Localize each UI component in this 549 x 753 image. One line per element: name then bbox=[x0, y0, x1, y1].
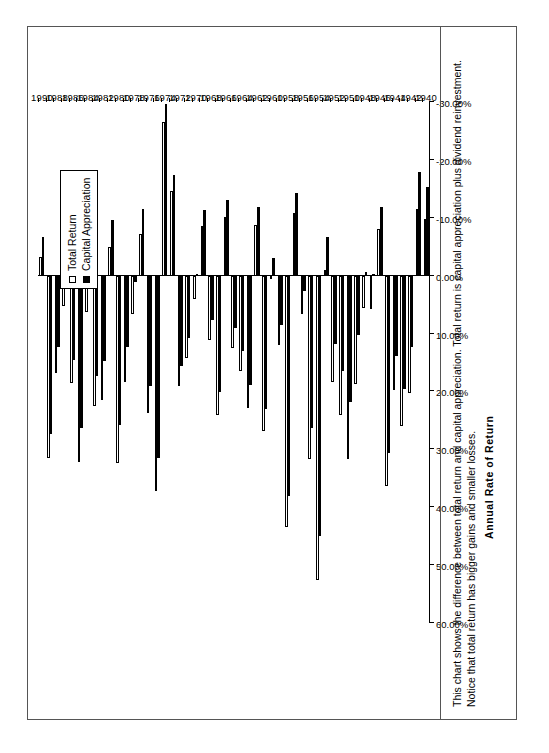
bar-capital-appreciation bbox=[319, 276, 322, 537]
bar-capital-appreciation bbox=[342, 276, 345, 372]
legend-item-capital-appreciation: Capital Appreciation bbox=[79, 178, 93, 283]
bar-capital-appreciation bbox=[403, 276, 406, 389]
figure-page: Figure 5.1 Difference Between Total Retu… bbox=[0, 0, 549, 753]
category-axis-tick bbox=[99, 98, 100, 102]
value-axis-tick bbox=[429, 390, 434, 391]
category-axis-tick bbox=[207, 98, 208, 102]
bar-capital-appreciation bbox=[272, 258, 275, 275]
category-axis-tick bbox=[284, 98, 285, 102]
bar-capital-appreciation bbox=[411, 276, 414, 348]
category-axis-tick bbox=[38, 98, 39, 102]
bar-capital-appreciation bbox=[119, 276, 122, 425]
category-axis-tick bbox=[315, 98, 316, 102]
category-axis-tick bbox=[130, 98, 131, 102]
bar-capital-appreciation bbox=[365, 272, 368, 276]
category-axis-tick bbox=[253, 98, 254, 102]
bar-capital-appreciation bbox=[180, 276, 183, 366]
category-axis-tick bbox=[345, 98, 346, 102]
legend-swatch-filled-square-icon bbox=[83, 276, 90, 283]
bar-capital-appreciation bbox=[111, 220, 114, 276]
category-axis-tick bbox=[238, 98, 239, 102]
category-axis-tick bbox=[299, 98, 300, 102]
category-axis-tick bbox=[192, 98, 193, 102]
bar-capital-appreciation bbox=[395, 276, 398, 356]
rotated-figure-wrapper: Figure 5.1 Difference Between Total Retu… bbox=[0, 0, 549, 753]
category-axis-tick bbox=[330, 98, 331, 102]
bar-total-return bbox=[270, 276, 273, 279]
bar-capital-appreciation bbox=[288, 276, 291, 497]
legend-swatch-hollow-square-icon bbox=[69, 276, 76, 283]
category-axis-tick bbox=[115, 98, 116, 102]
bar-total-return bbox=[370, 276, 373, 309]
category-axis-tick bbox=[69, 98, 70, 102]
bar-total-return bbox=[193, 276, 196, 299]
bar-capital-appreciation bbox=[257, 207, 260, 275]
bar-capital-appreciation bbox=[134, 276, 137, 282]
value-axis-tick bbox=[429, 564, 434, 565]
bar-capital-appreciation bbox=[311, 276, 314, 429]
bar-capital-appreciation bbox=[149, 276, 152, 387]
bar-capital-appreciation bbox=[42, 237, 45, 275]
category-axis-tick bbox=[222, 98, 223, 102]
bar-capital-appreciation bbox=[96, 276, 99, 376]
bar-capital-appreciation bbox=[173, 175, 176, 276]
legend-label-total-return: Total Return bbox=[65, 214, 79, 271]
bar-capital-appreciation bbox=[295, 193, 298, 276]
bar-capital-appreciation bbox=[372, 274, 375, 276]
category-axis-tick bbox=[422, 98, 423, 102]
bar-capital-appreciation bbox=[234, 276, 237, 329]
bar-capital-appreciation bbox=[126, 276, 129, 347]
bar-capital-appreciation bbox=[196, 274, 199, 276]
value-axis-tick bbox=[429, 622, 434, 623]
category-axis-tick bbox=[53, 98, 54, 102]
category-axis-label: 1990 bbox=[31, 92, 53, 103]
bar-capital-appreciation bbox=[265, 276, 268, 410]
bar-capital-appreciation bbox=[203, 210, 206, 276]
figure-caption: This chart shows the difference between … bbox=[440, 27, 517, 719]
category-axis-tick bbox=[407, 98, 408, 102]
bar-capital-appreciation bbox=[334, 276, 337, 344]
bar-capital-appreciation bbox=[50, 276, 53, 434]
category-axis-tick bbox=[392, 98, 393, 102]
bar-capital-appreciation bbox=[326, 237, 329, 275]
legend-item-total-return: Total Return bbox=[65, 178, 79, 283]
bar-capital-appreciation bbox=[157, 276, 160, 458]
bar-capital-appreciation bbox=[357, 276, 360, 336]
bar-total-return bbox=[362, 276, 365, 308]
category-axis-tick bbox=[161, 98, 162, 102]
bar-capital-appreciation bbox=[418, 172, 421, 276]
bar-capital-appreciation bbox=[142, 209, 145, 276]
category-axis-tick bbox=[84, 98, 85, 102]
value-axis-tick bbox=[429, 333, 434, 334]
figure-frame: 60.00%50.00%40.00%30.00%20.00%10.00%0.00… bbox=[27, 26, 517, 720]
value-axis-tick bbox=[429, 506, 434, 507]
bar-capital-appreciation bbox=[242, 276, 245, 351]
category-axis-tick bbox=[176, 98, 177, 102]
bar-capital-appreciation bbox=[388, 276, 391, 454]
value-axis-tick bbox=[429, 448, 434, 449]
category-axis-tick bbox=[269, 98, 270, 102]
value-axis-tick bbox=[429, 217, 434, 218]
value-axis-tick bbox=[429, 159, 434, 160]
bar-capital-appreciation bbox=[80, 276, 83, 428]
bar-capital-appreciation bbox=[211, 276, 214, 321]
chart-legend: Total Return Capital Appreciation bbox=[60, 170, 98, 289]
bar-capital-appreciation bbox=[219, 276, 222, 392]
legend-label-capital-appreciation: Capital Appreciation bbox=[79, 178, 93, 271]
bar-capital-appreciation bbox=[303, 276, 306, 291]
bar-capital-appreciation bbox=[349, 276, 352, 402]
bar-capital-appreciation bbox=[426, 187, 429, 276]
chart-plot-area: 60.00%50.00%40.00%30.00%20.00%10.00%0.00… bbox=[38, 102, 430, 623]
bar-capital-appreciation bbox=[165, 104, 168, 276]
category-axis-tick bbox=[146, 98, 147, 102]
category-axis-tick bbox=[361, 98, 362, 102]
bar-capital-appreciation bbox=[380, 207, 383, 276]
category-axis-tick bbox=[376, 98, 377, 102]
bar-capital-appreciation bbox=[103, 276, 106, 362]
bar-capital-appreciation bbox=[280, 276, 283, 325]
bar-capital-appreciation bbox=[188, 276, 191, 339]
bar-capital-appreciation bbox=[249, 276, 252, 385]
bar-capital-appreciation bbox=[226, 200, 229, 276]
